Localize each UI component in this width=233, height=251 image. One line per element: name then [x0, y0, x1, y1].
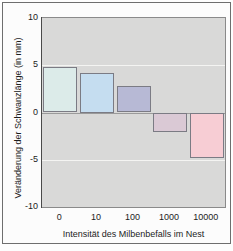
y-axis-title-wrap: Veränderung der Schwanzlänge (in mm) — [3, 13, 17, 208]
x-tick-label: 10000 — [193, 212, 218, 222]
x-tick-label: 1000 — [159, 212, 179, 222]
gridline — [42, 65, 225, 66]
chart-figure: 1050-5-10 010100100010000 Veränderung de… — [0, 0, 233, 251]
bar — [43, 67, 77, 112]
x-tick-label: 10 — [91, 212, 101, 222]
plot-area — [41, 17, 226, 208]
x-tick-label: 0 — [57, 212, 62, 222]
bar — [190, 113, 224, 158]
y-axis-line — [41, 17, 42, 208]
x-axis-title: Intensität des Milbenbefalls im Nest — [41, 229, 226, 239]
bar — [117, 86, 151, 112]
x-tick-label: 100 — [125, 212, 140, 222]
bar — [80, 73, 114, 113]
figure-frame: 1050-5-10 010100100010000 Veränderung de… — [2, 2, 231, 244]
y-axis-title: Veränderung der Schwanzlänge (in mm) — [13, 23, 23, 213]
bar — [153, 113, 187, 132]
gridline — [42, 160, 225, 161]
